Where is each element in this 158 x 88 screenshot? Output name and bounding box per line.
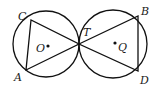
label-a: A [13,71,22,84]
triangle-cat [26,20,79,70]
triangle-tbd [79,16,138,71]
center-o-dot [46,44,49,47]
label-d: D [139,74,149,87]
tangent-circles-diagram: C A O T Q B D [0,0,158,88]
center-q-dot [113,41,116,44]
label-c: C [18,10,27,23]
label-b: B [140,5,149,18]
circle-q [79,10,147,78]
label-q: Q [118,41,127,54]
label-t: T [83,26,92,39]
label-o: O [36,42,45,55]
